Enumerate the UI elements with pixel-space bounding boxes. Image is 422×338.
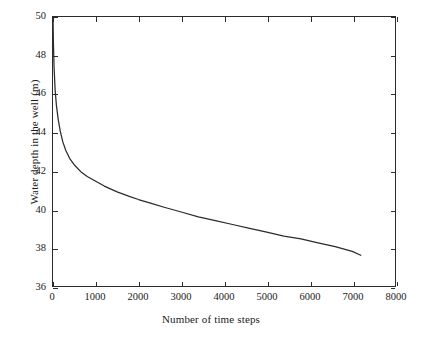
x-tick-mark [311,282,312,287]
y-tick-mark-right [391,56,396,57]
y-tick-mark [53,56,58,57]
x-tick-mark-top [354,17,355,22]
y-tick-mark-right [391,172,396,173]
y-tick-mark-right [391,249,396,250]
x-tick-mark [53,282,54,287]
x-tick-label: 3000 [159,292,203,303]
x-tick-label: 4000 [202,292,246,303]
y-tick-mark [53,17,58,18]
y-tick-mark [53,288,58,289]
x-tick-mark-top [225,17,226,22]
y-tick-mark [53,94,58,95]
y-tick-label: 50 [16,11,46,22]
y-tick-mark-right [391,94,396,95]
x-tick-label: 6000 [288,292,332,303]
y-tick-mark-right [391,133,396,134]
x-tick-mark-top [182,17,183,22]
x-tick-mark [397,282,398,287]
y-tick-label: 36 [16,282,46,293]
y-tick-mark-right [391,17,396,18]
y-tick-mark [53,133,58,134]
x-tick-mark-top [268,17,269,22]
y-tick-mark-right [391,211,396,212]
x-axis-title: Number of time steps [0,313,422,325]
x-tick-label: 0 [30,292,74,303]
x-tick-mark [96,282,97,287]
x-tick-mark [139,282,140,287]
x-tick-mark [354,282,355,287]
y-tick-mark [53,211,58,212]
x-tick-mark-top [311,17,312,22]
x-tick-mark-top [397,17,398,22]
x-tick-label: 7000 [331,292,375,303]
x-tick-label: 2000 [116,292,160,303]
y-tick-mark-right [391,288,396,289]
x-tick-mark [182,282,183,287]
y-tick-mark [53,172,58,173]
x-tick-mark-top [139,17,140,22]
chart-figure: 3638404244464850 01000200030004000500060… [0,0,422,338]
x-tick-mark [225,282,226,287]
y-axis-title: Water depth in the well (m) [28,22,40,262]
x-tick-label: 1000 [73,292,117,303]
y-tick-mark [53,249,58,250]
data-series-water-depth [53,17,361,255]
x-tick-label: 5000 [245,292,289,303]
x-tick-mark [268,282,269,287]
data-curve-svg [53,17,395,286]
x-tick-mark-top [96,17,97,22]
x-tick-label: 8000 [374,292,418,303]
plot-area [52,16,396,287]
